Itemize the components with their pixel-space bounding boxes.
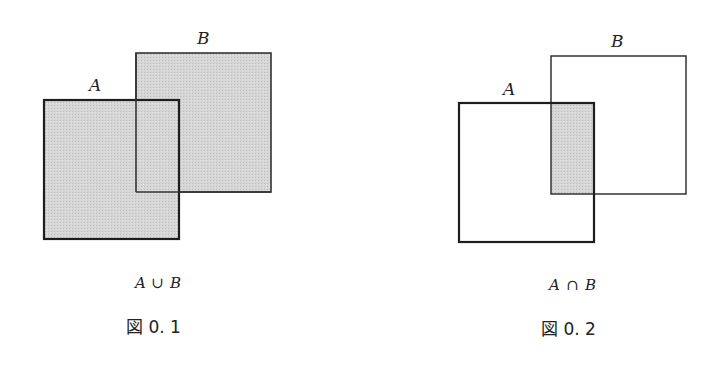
caption-right-operand: B [584, 276, 596, 294]
intersection-shaded [551, 103, 594, 194]
set-a-label: A [87, 75, 101, 95]
set-a-square-shaded [44, 100, 179, 239]
figure-label: 図 0. 2 [541, 319, 596, 339]
caption-right-operand: B [169, 274, 181, 292]
union-symbol: ∪ [151, 274, 164, 292]
set-a-label: A [501, 79, 515, 99]
set-b-label: B [196, 28, 210, 48]
figure-intersection: A B A ∩ B 図 0. 2 [459, 31, 686, 339]
figure-union: A B A ∪ B 図 0. 1 [44, 28, 271, 337]
figure-label: 図 0. 1 [126, 317, 181, 337]
caption-left-operand: A [547, 276, 560, 294]
set-b-label: B [610, 31, 624, 51]
intersection-symbol: ∩ [566, 276, 579, 294]
caption-left-operand: A [133, 274, 146, 292]
venn-figures-canvas: A B A ∪ B 図 0. 1 A B A ∩ B 図 0. 2 [0, 0, 722, 370]
